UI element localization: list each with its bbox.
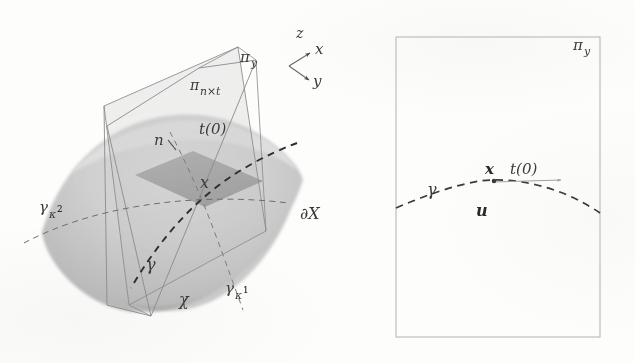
label-geodesic-gamma-kappa1-exponent: 1 <box>243 285 249 295</box>
label-geodesic-gamma-kappa1-subscript: κ <box>234 289 242 302</box>
label-plane-pi-y: π <box>239 48 251 66</box>
label-geodesic-gamma-kappa1: γ <box>225 279 234 297</box>
label-geodesic-gamma-kappa2: γ <box>39 198 48 216</box>
label-plane-pi-nt: π <box>189 77 200 93</box>
label-geodesic-gamma-right: γ <box>427 180 437 199</box>
label-geodesic-gamma: γ <box>146 255 156 274</box>
figure-canvas: π y π n×t n t(0) x ∂X γ γ κ 2 <box>0 0 635 363</box>
tangent-direction-arrow <box>494 180 561 182</box>
label-axis-z: z <box>295 25 304 41</box>
coordinate-axis-triad <box>289 37 310 80</box>
point-x-marker <box>492 179 497 184</box>
label-normal-n: n <box>154 131 164 149</box>
label-chi: χ <box>178 290 190 309</box>
label-point-x-right: x <box>484 160 495 178</box>
label-axis-x: x <box>315 40 324 58</box>
label-geodesic-gamma-kappa2-exponent: 2 <box>57 204 63 214</box>
label-tangent-t0: t(0) <box>199 120 226 138</box>
label-plane-pi-nt-subscript: n×t <box>200 85 221 98</box>
label-plane-pi-y-right: π <box>572 36 584 54</box>
label-point-x: x <box>200 173 209 192</box>
figure-page: π y π n×t n t(0) x ∂X γ γ κ 2 <box>0 0 635 363</box>
right-panel-2d: π y γ x t(0) u <box>396 36 600 337</box>
label-tangent-t0-right: t(0) <box>510 160 537 178</box>
right-panel-labels: π y γ x t(0) u <box>427 36 591 220</box>
label-u-vector: u <box>476 201 488 220</box>
label-plane-pi-y-subscript: y <box>250 57 258 70</box>
label-geodesic-gamma-kappa2-subscript: κ <box>48 208 56 221</box>
label-plane-pi-y-right-subscript: y <box>583 45 591 58</box>
label-axis-y: y <box>312 72 322 90</box>
left-panel-3d: π y π n×t n t(0) x ∂X γ γ κ 2 <box>24 25 324 316</box>
label-boundary-dX: ∂X <box>300 204 320 223</box>
